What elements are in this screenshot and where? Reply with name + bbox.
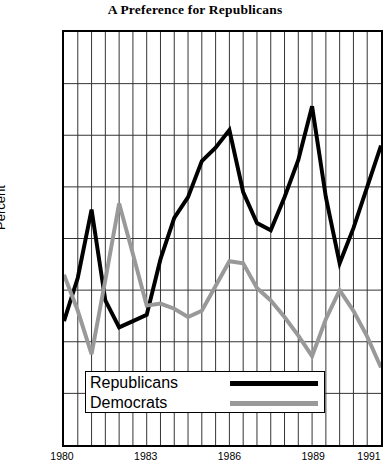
x-tick-1986: 1986	[209, 450, 249, 462]
chart-legend: Republicans Democrats	[85, 371, 325, 413]
x-tick-1980: 1980	[42, 450, 82, 462]
chart-container: A Preference for Republicans Percent 605…	[0, 0, 390, 470]
legend-swatch-democrats	[230, 401, 318, 406]
legend-item-democrats: Democrats	[90, 393, 324, 413]
legend-label-democrats: Democrats	[90, 393, 230, 413]
series-line-republicans	[64, 106, 381, 327]
x-tick-1983: 1983	[126, 450, 166, 462]
y-axis-title: Percent	[0, 185, 8, 230]
legend-item-republicans: Republicans	[90, 373, 324, 393]
legend-swatch-republicans	[230, 381, 318, 386]
x-tick-1989: 1989	[293, 450, 333, 462]
legend-label-republicans: Republicans	[90, 373, 230, 393]
x-tick-1991: 1991	[349, 450, 389, 462]
chart-title: A Preference for Republicans	[0, 2, 390, 18]
